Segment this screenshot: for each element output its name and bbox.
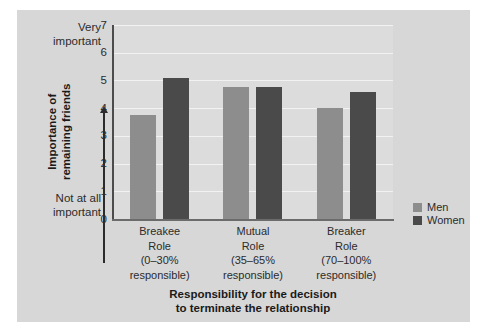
bar-group	[113, 25, 206, 219]
y-axis-title-group: Importance of remaining friends	[43, 70, 77, 200]
bar-group	[300, 25, 393, 219]
x-axis-category-label-line: responsible)	[206, 268, 299, 283]
x-axis-line	[112, 219, 394, 221]
figure-panel: Very important Not at all important Impo…	[17, 10, 470, 322]
x-axis-category-label: BreakerRole(70–100%responsible)	[300, 224, 393, 282]
x-axis-category-label: MutualRole(35–65%responsible)	[206, 224, 299, 282]
legend-item-men[interactable]: Men	[413, 201, 471, 214]
y-axis-tick-labels: 76543210	[79, 25, 107, 219]
x-axis-category-label-line: Role	[113, 239, 206, 254]
bar-group	[206, 25, 299, 219]
y-axis-tick-label: 4	[93, 103, 107, 115]
legend-item-women[interactable]: Women	[413, 214, 471, 227]
x-axis-category-label-line: Breakee	[113, 224, 206, 239]
x-axis-title: Responsibility for the decision to termi…	[113, 287, 393, 316]
bars-layer	[113, 25, 393, 219]
y-axis-tick-label: 7	[93, 20, 107, 32]
y-axis-tick-label: 3	[93, 130, 107, 142]
bar-men	[317, 108, 343, 219]
y-axis-tick-label: 0	[93, 214, 107, 226]
legend-label: Men	[427, 202, 448, 213]
x-axis-title-line-2: to terminate the relationship	[113, 301, 393, 315]
y-axis-tick-label: 6	[93, 47, 107, 59]
x-axis-title-line-1: Responsibility for the decision	[113, 287, 393, 301]
y-axis-tick-label: 5	[93, 75, 107, 87]
x-axis-category-labels: BreakeeRole(0–30%responsible)MutualRole(…	[113, 224, 393, 286]
x-axis-category-label-line: (35–65%	[206, 253, 299, 268]
legend-swatch-icon	[413, 203, 422, 212]
x-axis-category-label-line: (70–100%	[300, 253, 393, 268]
y-axis-tick-label: 2	[93, 158, 107, 170]
bar-women	[163, 78, 189, 219]
y-axis-title-line-1: Importance of	[46, 94, 58, 170]
bar-men	[223, 87, 249, 219]
bar-men	[130, 115, 156, 219]
legend-swatch-icon	[413, 216, 422, 225]
legend-label: Women	[427, 215, 465, 226]
x-axis-category-label: BreakeeRole(0–30%responsible)	[113, 224, 206, 282]
bar-women	[350, 92, 376, 219]
bar-women	[256, 87, 282, 219]
x-axis-category-label-line: Mutual	[206, 224, 299, 239]
x-axis-category-label-line: Role	[300, 239, 393, 254]
x-axis-category-label-line: responsible)	[300, 268, 393, 283]
x-axis-category-label-line: responsible)	[113, 268, 206, 283]
x-axis-category-label-line: Role	[206, 239, 299, 254]
x-axis-category-label-line: Breaker	[300, 224, 393, 239]
x-axis-category-label-line: (0–30%	[113, 253, 206, 268]
y-axis-title-line-2: remaining friends	[60, 84, 72, 181]
y-axis-tick-label: 1	[93, 186, 107, 198]
y-axis-title: Importance of remaining friends	[46, 67, 74, 197]
legend: MenWomen	[413, 201, 471, 227]
